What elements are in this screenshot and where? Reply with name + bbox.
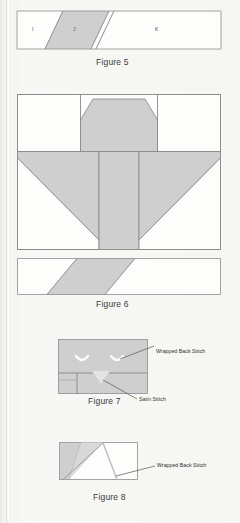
figure-7-block [59,340,148,394]
figure-6-caption: Figure 6 [96,299,129,309]
page-gutter-line [6,0,7,523]
figure-6-strip-diagram [17,258,221,295]
figure-6-lower-centre-shaded [99,152,139,250]
figure-7-annotation-wrapped-back-stitch: Wrapped Back Stitch [156,348,205,354]
figure-5-label-i: I [32,26,33,32]
figure-5-label-k: K [155,26,158,32]
figure-6-top-centre-shaded [81,99,158,152]
figure-7-caption: Figure 7 [88,396,121,406]
figure-5-diagram: I J K [17,11,221,51]
figure-6-upper-left-square [18,95,81,152]
figure-7-diagram [58,339,238,401]
figure-6-diagram [17,94,221,250]
figure-5-caption: Figure 5 [96,57,129,67]
figure-8-diagram [59,442,239,492]
figure-5-label-j: J [73,26,76,32]
figure-8-caption: Figure 8 [93,492,126,502]
figure-5-piece-k [96,11,221,49]
figure-8-annotation-wrapped-back-stitch: Wrapped Back Stitch [157,462,206,468]
figure-6-upper-right-square [158,95,221,152]
page-gutter-line-secondary [10,0,11,523]
figure-7-annotation-satin-stitch: Satin Stitch [139,396,166,402]
